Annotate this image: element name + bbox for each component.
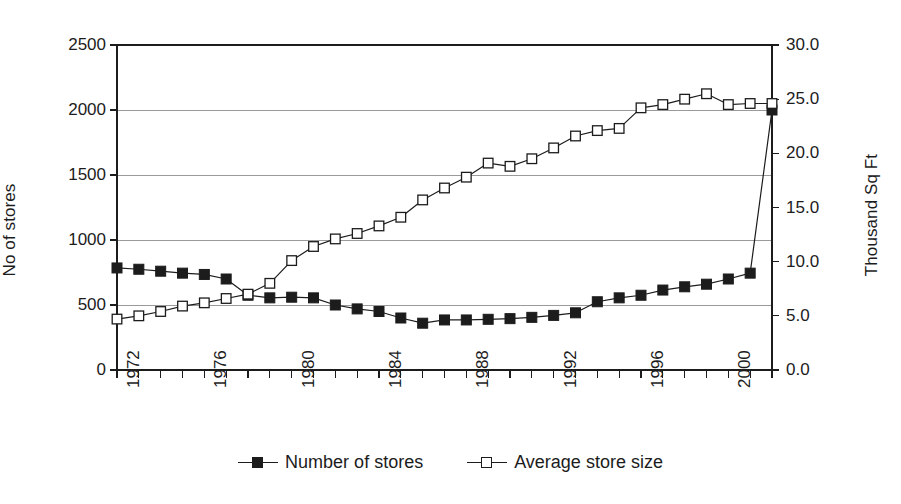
right-axis-tick-label: 15.0 (786, 198, 819, 218)
data-marker-filled-square (723, 274, 733, 284)
data-marker-open-square (571, 131, 581, 141)
left-axis-tick-label: 0 (40, 360, 106, 380)
data-marker-filled-square (658, 285, 668, 295)
data-marker-filled-square (571, 308, 581, 318)
data-marker-open-square (767, 99, 777, 109)
legend-entry: Number of stores (238, 452, 423, 473)
right-axis-tick-label: 25.0 (786, 89, 819, 109)
series-average-store-size (112, 89, 777, 324)
legend-marker-filled-square-icon (252, 457, 263, 468)
data-marker-filled-square (112, 263, 122, 273)
right-axis-tick-label: 30.0 (786, 35, 819, 55)
series-line (117, 94, 772, 319)
data-marker-open-square (614, 124, 624, 134)
data-marker-open-square (505, 162, 515, 172)
data-marker-open-square (178, 301, 188, 311)
data-marker-filled-square (199, 269, 209, 279)
data-marker-open-square (724, 100, 734, 110)
legend-swatch (238, 456, 278, 470)
x-axis-tick-label: 1976 (211, 350, 231, 388)
legend-swatch (467, 456, 507, 470)
data-marker-open-square (156, 307, 166, 317)
data-marker-open-square (636, 103, 646, 113)
data-marker-open-square (200, 298, 210, 308)
x-axis-tick-label: 2000 (735, 350, 755, 388)
data-marker-open-square (483, 158, 493, 168)
data-marker-filled-square (156, 266, 166, 276)
data-marker-open-square (462, 172, 472, 182)
data-marker-open-square (331, 234, 341, 244)
data-marker-filled-square (287, 292, 297, 302)
data-marker-filled-square (636, 290, 646, 300)
data-marker-open-square (287, 256, 297, 266)
data-marker-open-square (702, 89, 712, 99)
data-marker-open-square (745, 99, 755, 109)
data-marker-open-square (352, 229, 362, 239)
x-axis-tick-label: 1980 (299, 350, 319, 388)
right-axis-tick-label: 20.0 (786, 143, 819, 163)
legend-label: Number of stores (285, 452, 423, 473)
data-marker-open-square (658, 100, 668, 110)
data-marker-filled-square (702, 279, 712, 289)
data-marker-open-square (134, 311, 144, 321)
data-marker-open-square (374, 221, 384, 231)
series-line (117, 110, 772, 323)
legend-marker-open-square-icon (481, 457, 492, 468)
data-marker-filled-square (614, 293, 624, 303)
data-marker-open-square (418, 195, 428, 205)
data-marker-open-square (243, 289, 253, 299)
x-axis-tick-label: 1972 (124, 350, 144, 388)
legend-label: Average store size (514, 452, 663, 473)
data-marker-filled-square (178, 268, 188, 278)
data-marker-open-square (309, 242, 319, 252)
data-marker-open-square (440, 183, 450, 193)
data-marker-filled-square (505, 314, 515, 324)
right-axis-tick-label: 5.0 (786, 306, 810, 326)
x-axis-tick-label: 1984 (386, 350, 406, 388)
legend-entry: Average store size (467, 452, 663, 473)
left-axis-tick-label: 1500 (40, 165, 106, 185)
data-marker-filled-square (549, 310, 559, 320)
data-marker-filled-square (221, 274, 231, 284)
data-marker-open-square (549, 143, 559, 153)
data-marker-filled-square (265, 293, 275, 303)
data-marker-open-square (527, 154, 537, 164)
data-marker-filled-square (440, 315, 450, 325)
data-marker-filled-square (309, 293, 319, 303)
dual-axis-line-chart: No of stores Thousand Sq Ft 050010001500… (0, 0, 901, 504)
data-marker-filled-square (527, 312, 537, 322)
series-number-of-stores (112, 105, 777, 328)
data-marker-filled-square (418, 318, 428, 328)
left-axis-tick-label: 2000 (40, 100, 106, 120)
data-marker-open-square (680, 94, 690, 104)
data-marker-open-square (593, 126, 603, 136)
data-marker-open-square (112, 314, 122, 324)
data-marker-filled-square (483, 314, 493, 324)
data-marker-filled-square (374, 307, 384, 317)
data-marker-open-square (221, 294, 231, 304)
data-marker-open-square (265, 279, 275, 289)
x-axis-tick-label: 1992 (561, 350, 581, 388)
data-marker-filled-square (352, 304, 362, 314)
chart-legend: Number of storesAverage store size (0, 452, 901, 473)
plot-area (0, 0, 901, 504)
data-marker-filled-square (396, 313, 406, 323)
data-marker-filled-square (592, 297, 602, 307)
left-axis-tick-label: 1000 (40, 230, 106, 250)
data-marker-filled-square (134, 264, 144, 274)
data-marker-filled-square (745, 268, 755, 278)
right-axis-tick-label: 10.0 (786, 252, 819, 272)
x-axis-tick-label: 1996 (648, 350, 668, 388)
data-marker-filled-square (461, 315, 471, 325)
data-marker-filled-square (680, 282, 690, 292)
left-axis-tick-label: 500 (40, 295, 106, 315)
data-marker-open-square (396, 212, 406, 222)
left-axis-tick-label: 2500 (40, 35, 106, 55)
x-axis-tick-label: 1988 (473, 350, 493, 388)
right-axis-tick-label: 0.0 (786, 360, 810, 380)
data-marker-filled-square (330, 300, 340, 310)
